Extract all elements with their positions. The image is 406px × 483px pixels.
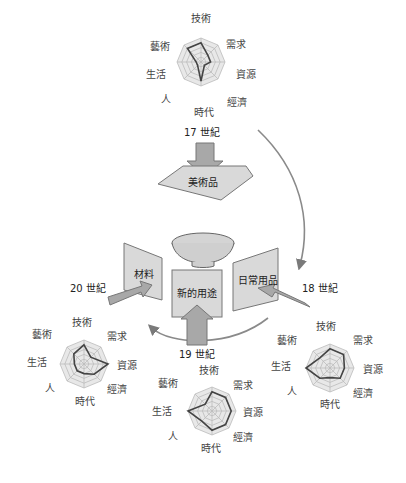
- axis-label-demand: 需求: [233, 381, 253, 391]
- axis-label-art: 藝術: [32, 330, 52, 340]
- axis-label-demand: 需求: [353, 336, 373, 346]
- axis-label-tech: 技術: [191, 14, 211, 24]
- axis-label-resource: 資源: [236, 70, 256, 80]
- axis-label-people: 人: [161, 95, 171, 105]
- axis-label-economy: 經濟: [107, 385, 127, 395]
- axis-label-economy: 經濟: [233, 433, 253, 443]
- axis-label-resource: 資源: [117, 361, 137, 371]
- panel-daily-label: 日常用品: [238, 276, 278, 286]
- axis-label-life: 生活: [271, 362, 291, 372]
- century-label-20: 20 世紀: [70, 284, 106, 294]
- axis-label-people: 人: [287, 387, 297, 397]
- axis-label-life: 生活: [27, 358, 47, 368]
- axis-label-life: 生活: [146, 70, 166, 80]
- radar-charts-layer: [0, 0, 406, 483]
- axis-label-economy: 經濟: [227, 98, 247, 108]
- axis-label-art: 藝術: [158, 379, 178, 389]
- panel-material-label: 材料: [134, 270, 154, 280]
- axis-label-resource: 資源: [243, 408, 263, 418]
- axis-label-tech: 技術: [199, 366, 219, 376]
- axis-label-art: 藝術: [277, 336, 297, 346]
- axis-label-resource: 資源: [363, 365, 383, 375]
- radar-chart-20: [60, 340, 108, 388]
- axis-label-people: 人: [168, 432, 178, 442]
- panel-new-use-label: 新的用途: [177, 289, 217, 299]
- radar-chart-19: [188, 387, 236, 435]
- century-label-18: 18 世紀: [302, 284, 338, 294]
- axis-label-tech: 技術: [316, 322, 336, 332]
- century-label-19: 19 世紀: [179, 350, 215, 360]
- axis-label-era: 時代: [320, 400, 340, 410]
- axis-label-era: 時代: [201, 444, 221, 454]
- century-label-17: 17 世紀: [184, 128, 220, 138]
- axis-label-era: 時代: [194, 108, 214, 118]
- axis-label-people: 人: [45, 384, 55, 394]
- axis-label-tech: 技術: [72, 318, 92, 328]
- radar-chart-17: [177, 38, 225, 86]
- radar-chart-18: [306, 344, 354, 392]
- axis-label-art: 藝術: [150, 42, 170, 52]
- panel-art-label: 美術品: [188, 178, 218, 188]
- axis-label-life: 生活: [152, 407, 172, 417]
- axis-label-demand: 需求: [107, 332, 127, 342]
- axis-label-demand: 需求: [226, 40, 246, 50]
- axis-label-era: 時代: [75, 397, 95, 407]
- axis-label-economy: 經濟: [353, 389, 373, 399]
